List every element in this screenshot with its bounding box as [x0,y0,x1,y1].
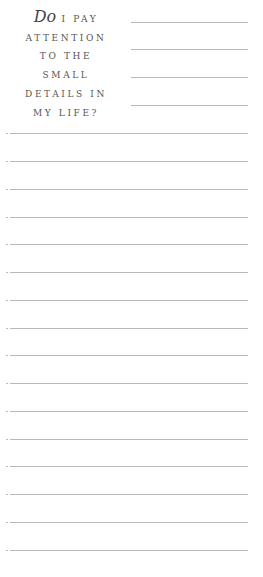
line-tick [6,133,8,134]
line-tick [6,411,8,412]
writing-line [131,105,248,106]
line-tick [6,355,8,356]
writing-line [10,244,248,245]
line-tick [6,466,8,467]
writing-line [10,466,248,467]
line-tick [6,244,8,245]
line-tick [6,189,8,190]
writing-line [10,439,248,440]
line-tick [6,550,8,551]
writing-line [10,328,248,329]
writing-line [10,522,248,523]
line-tick [6,439,8,440]
writing-line [10,133,248,134]
prompt-line-1: Do I PAY [10,8,122,29]
writing-line [10,411,248,412]
line-tick [6,494,8,495]
writing-line [10,300,248,301]
prompt-line-5: DETAILS IN [10,85,122,104]
writing-line [10,161,248,162]
writing-line [131,77,248,78]
writing-line [10,494,248,495]
writing-line [10,355,248,356]
line-tick [6,272,8,273]
writing-line [10,189,248,190]
writing-line [10,383,248,384]
line-tick [6,328,8,329]
line-tick [6,217,8,218]
line-tick [6,300,8,301]
drop-cap: Do [34,7,56,26]
prompt-line-3: TO THE [10,47,122,66]
prompt-line-4: SMALL [10,66,122,85]
writing-line [10,217,248,218]
writing-line [10,550,248,551]
prompt-line-2: ATTENTION [10,29,122,48]
writing-line [131,49,248,50]
line-tick [6,522,8,523]
line-tick [6,383,8,384]
line-tick [6,161,8,162]
writing-line [131,22,248,23]
prompt-line-6: MY LIFE? [10,104,122,123]
writing-line [10,272,248,273]
journal-prompt: Do I PAY ATTENTION TO THE SMALL DETAILS … [10,8,122,122]
